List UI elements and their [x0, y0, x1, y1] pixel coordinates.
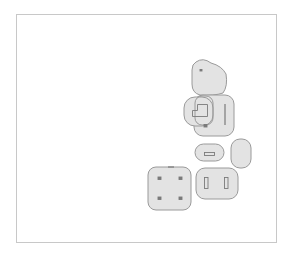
two-slot-shape: [196, 168, 238, 199]
diagram-frame: [17, 15, 277, 243]
middle-left-blob: [184, 97, 213, 126]
right-oval: [231, 139, 251, 168]
pad-top-right: [179, 177, 182, 180]
small-square-pad: [204, 125, 207, 128]
top-dot: [200, 70, 202, 72]
diagram-canvas: [0, 0, 293, 256]
shape-group: [148, 60, 251, 210]
pad-bottom-right: [179, 197, 182, 200]
four-pad-square: [148, 167, 191, 210]
pad-top-left: [158, 177, 161, 180]
top-blob: [192, 60, 227, 96]
pad-bottom-left: [158, 197, 161, 200]
